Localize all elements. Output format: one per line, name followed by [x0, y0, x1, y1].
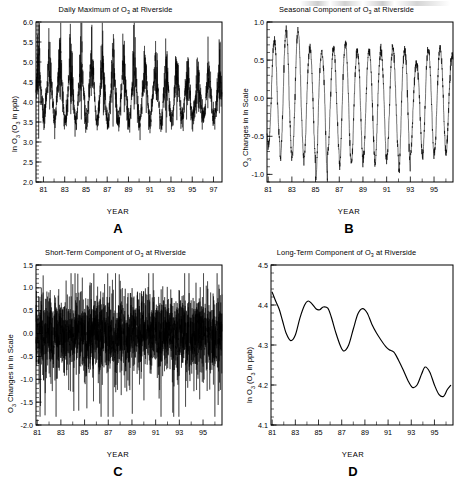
svg-text:0.0: 0.0 — [254, 94, 264, 103]
svg-text:91: 91 — [146, 185, 154, 194]
svg-text:4.4: 4.4 — [258, 301, 268, 310]
svg-text:4.5: 4.5 — [23, 78, 33, 87]
svg-text:4.5: 4.5 — [258, 261, 268, 270]
svg-text:89: 89 — [359, 185, 367, 194]
panel-a-plot: 2.02.53.03.54.04.55.05.56.08183858789919… — [0, 16, 231, 216]
svg-text:85: 85 — [315, 428, 323, 437]
svg-text:81: 81 — [33, 428, 41, 437]
svg-text:3.5: 3.5 — [23, 118, 33, 127]
svg-text:-1.0: -1.0 — [252, 170, 264, 179]
svg-text:89: 89 — [361, 428, 369, 437]
svg-text:85: 85 — [81, 428, 89, 437]
svg-text:-0.5: -0.5 — [21, 352, 33, 361]
svg-text:87: 87 — [104, 428, 112, 437]
panel-b-x-axis-label: YEAR — [249, 207, 449, 216]
svg-text:81: 81 — [268, 428, 276, 437]
figure-ozone-decomposition: Daily Maximum of O3 at Riverside ln O3 (… — [0, 0, 462, 493]
svg-text:5.0: 5.0 — [23, 58, 33, 67]
svg-text:97: 97 — [209, 185, 217, 194]
panel-b-seasonal-component: Seasonal Component of O3 at Riverside O3… — [231, 2, 462, 247]
svg-text:0.5: 0.5 — [23, 306, 33, 315]
svg-text:89: 89 — [128, 428, 136, 437]
svg-text:4.0: 4.0 — [23, 98, 33, 107]
svg-text:93: 93 — [175, 428, 183, 437]
svg-text:4.1: 4.1 — [258, 421, 268, 430]
svg-text:87: 87 — [338, 428, 346, 437]
svg-text:85: 85 — [312, 185, 320, 194]
svg-text:5.5: 5.5 — [23, 38, 33, 47]
panel-c-plot: -2.0-1.5-1.0-0.50.00.51.01.5818385878991… — [0, 259, 231, 459]
svg-text:83: 83 — [61, 185, 69, 194]
svg-text:0.5: 0.5 — [254, 56, 264, 65]
svg-text:91: 91 — [152, 428, 160, 437]
panel-c-letter: C — [18, 464, 218, 479]
svg-text:95: 95 — [430, 428, 438, 437]
svg-text:93: 93 — [167, 185, 175, 194]
svg-text:0.0: 0.0 — [23, 329, 33, 338]
panel-b-title: Seasonal Component of O3 at Riverside — [231, 5, 462, 15]
svg-text:2.0: 2.0 — [23, 178, 33, 187]
svg-text:95: 95 — [188, 185, 196, 194]
svg-text:-0.5: -0.5 — [252, 132, 264, 141]
svg-text:83: 83 — [291, 428, 299, 437]
svg-text:4.2: 4.2 — [258, 381, 268, 390]
svg-text:83: 83 — [288, 185, 296, 194]
svg-text:95: 95 — [199, 428, 207, 437]
panel-b-letter: B — [249, 221, 449, 236]
panel-d-title: Long-Term Component of O3 at Riverside — [231, 248, 462, 258]
panel-c-x-axis-label: YEAR — [18, 450, 218, 459]
svg-text:87: 87 — [335, 185, 343, 194]
svg-text:81: 81 — [264, 185, 272, 194]
panel-a-x-axis-label: YEAR — [18, 207, 218, 216]
svg-text:1.5: 1.5 — [23, 261, 33, 270]
svg-text:83: 83 — [57, 428, 65, 437]
panel-d-x-axis-label: YEAR — [253, 450, 453, 459]
panel-d-long-term-component: Long-Term Component of O3 at Riverside l… — [231, 245, 462, 493]
svg-text:6.0: 6.0 — [23, 18, 33, 27]
svg-text:87: 87 — [103, 185, 111, 194]
svg-text:93: 93 — [406, 185, 414, 194]
panel-a-title: Daily Maximum of O3 at Riverside — [0, 5, 231, 15]
panel-c-title: Short-Term Component of O3 at Riverside — [0, 248, 231, 258]
panel-b-plot: -1.0-0.50.00.51.08183858789919395 — [231, 16, 462, 216]
svg-text:2.5: 2.5 — [23, 158, 33, 167]
svg-text:95: 95 — [430, 185, 438, 194]
panel-c-short-term-component: Short-Term Component of O3 at Riverside … — [0, 245, 231, 493]
svg-text:1.0: 1.0 — [23, 283, 33, 292]
svg-text:91: 91 — [384, 428, 392, 437]
svg-text:81: 81 — [39, 185, 47, 194]
svg-text:85: 85 — [82, 185, 90, 194]
svg-text:-1.0: -1.0 — [21, 375, 33, 384]
svg-text:93: 93 — [407, 428, 415, 437]
svg-text:1.0: 1.0 — [254, 18, 264, 27]
svg-text:-2.0: -2.0 — [21, 421, 33, 430]
panel-a-daily-maximum: Daily Maximum of O3 at Riverside ln O3 (… — [0, 2, 231, 247]
panel-d-letter: D — [253, 464, 453, 479]
svg-text:4.3: 4.3 — [258, 341, 268, 350]
svg-text:3.0: 3.0 — [23, 138, 33, 147]
svg-text:-1.5: -1.5 — [21, 398, 33, 407]
svg-text:89: 89 — [124, 185, 132, 194]
panel-a-letter: A — [18, 221, 218, 236]
panel-d-plot: 4.14.24.34.44.58183858789919395 — [231, 259, 462, 459]
svg-text:91: 91 — [383, 185, 391, 194]
